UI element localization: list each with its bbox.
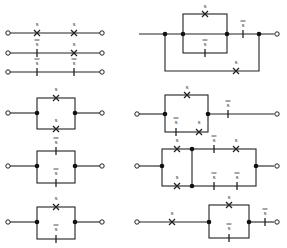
terminal-icon bbox=[100, 164, 104, 168]
contact-label: s bbox=[176, 173, 179, 181]
circuit-series-sbar-sbar: s s bbox=[6, 59, 104, 76]
contact-label: s bbox=[36, 40, 39, 48]
terminal-icon bbox=[6, 51, 10, 55]
contact-label: s bbox=[55, 116, 58, 124]
junction-node-icon bbox=[247, 220, 252, 225]
junction-node-icon bbox=[35, 164, 40, 169]
terminal-icon bbox=[135, 164, 139, 168]
contact-label: s bbox=[55, 138, 58, 146]
circuit-series-sbar-s: s s bbox=[6, 40, 104, 57]
terminal-icon bbox=[100, 220, 104, 224]
contact-label: s bbox=[264, 209, 267, 217]
circuit-parallel-with-series-branch: s s s s bbox=[135, 83, 279, 136]
contact-label: s bbox=[235, 58, 238, 66]
switching-circuits-diagram: s s s s s s s s s s s s bbox=[0, 0, 287, 248]
junction-node-icon bbox=[160, 164, 165, 169]
contact-label: s bbox=[235, 136, 238, 144]
contact-label: s bbox=[55, 194, 58, 202]
terminal-icon bbox=[100, 51, 104, 55]
junction-node-icon bbox=[35, 220, 40, 225]
circuit-parallel-sbar-sbar: s s bbox=[6, 138, 104, 187]
junction-node-icon bbox=[163, 32, 168, 37]
terminal-icon bbox=[6, 164, 10, 168]
junction-node-icon bbox=[73, 164, 78, 169]
contact-label: s bbox=[171, 209, 174, 217]
junction-node-icon bbox=[206, 112, 211, 117]
junction-node-icon bbox=[73, 111, 78, 116]
contact-label: s bbox=[186, 83, 189, 91]
terminal-icon bbox=[275, 220, 279, 224]
terminal-icon bbox=[275, 164, 279, 168]
contact-label: s bbox=[228, 224, 231, 232]
junction-node-icon bbox=[190, 147, 195, 152]
contact-label: s bbox=[228, 193, 231, 201]
terminal-icon bbox=[100, 31, 104, 35]
junction-node-icon bbox=[254, 164, 259, 169]
junction-node-icon bbox=[73, 220, 78, 225]
terminal-icon bbox=[100, 111, 104, 115]
contact-label: s bbox=[73, 40, 76, 48]
contact-label: s bbox=[176, 136, 179, 144]
junction-node-icon bbox=[257, 32, 262, 37]
contact-label: s bbox=[236, 173, 239, 181]
circuit-bridge: s s s s s s bbox=[135, 136, 279, 190]
contact-label: s bbox=[213, 136, 216, 144]
junction-node-icon bbox=[190, 184, 195, 189]
terminal-icon bbox=[135, 112, 139, 116]
contact-label: s bbox=[204, 40, 207, 48]
junction-node-icon bbox=[35, 111, 40, 116]
terminal-icon bbox=[135, 220, 139, 224]
contact-label: s bbox=[204, 2, 207, 10]
terminal-icon bbox=[6, 70, 10, 74]
contact-label: s bbox=[55, 169, 58, 177]
terminal-icon bbox=[275, 112, 279, 116]
junction-node-icon bbox=[225, 32, 230, 37]
junction-node-icon bbox=[163, 112, 168, 117]
contact-label: s bbox=[242, 21, 245, 29]
contact-label: s bbox=[227, 101, 230, 109]
contact-label: s bbox=[213, 173, 216, 181]
contact-label: s bbox=[73, 59, 76, 67]
contact-label: s bbox=[175, 118, 178, 126]
circuit-series-s-s: s s bbox=[6, 20, 104, 36]
terminal-icon bbox=[275, 32, 279, 36]
terminal-icon bbox=[6, 111, 10, 115]
circuit-lead-then-parallel: s s s s bbox=[135, 193, 279, 242]
contact-label: s bbox=[36, 59, 39, 67]
circuit-series-parallel-bypass: s s s s bbox=[139, 2, 279, 74]
contact-label: s bbox=[55, 225, 58, 233]
contact-label: s bbox=[55, 85, 58, 93]
circuit-parallel-s-s: s s bbox=[6, 85, 104, 132]
contact-label: s bbox=[73, 20, 76, 28]
contact-label: s bbox=[198, 118, 201, 126]
junction-node-icon bbox=[207, 220, 212, 225]
terminal-icon bbox=[100, 70, 104, 74]
terminal-icon bbox=[6, 220, 10, 224]
junction-node-icon bbox=[181, 32, 186, 37]
circuit-parallel-s-sbar: s s bbox=[6, 194, 104, 243]
contact-label: s bbox=[36, 20, 39, 28]
terminal-icon bbox=[6, 31, 10, 35]
